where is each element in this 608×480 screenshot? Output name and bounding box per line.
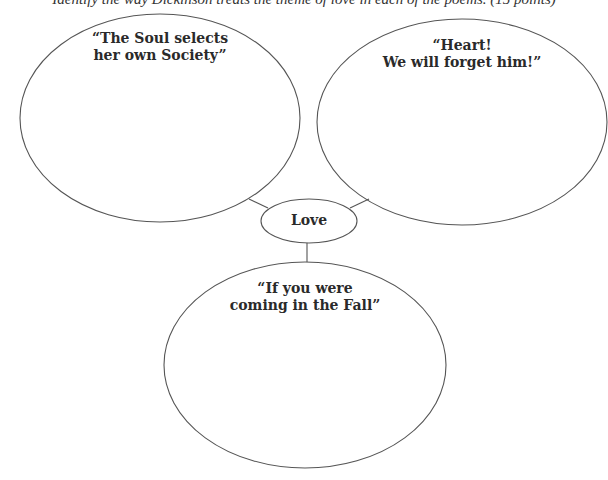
connector-right xyxy=(350,199,369,208)
oval-fall-title-line1: “If you were xyxy=(205,280,405,297)
center-love-label: Love xyxy=(259,212,359,229)
oval-soul-title: “The Soul selects her own Society” xyxy=(60,30,260,64)
oval-soul-title-line1: “The Soul selects xyxy=(60,30,260,47)
oval-heart-title-line2: We will forget him!” xyxy=(362,54,562,71)
concept-web xyxy=(0,0,608,480)
oval-fall-title: “If you were coming in the Fall” xyxy=(205,280,405,314)
oval-soul-title-line2: her own Society” xyxy=(60,47,260,64)
oval-heart-title: “Heart! We will forget him!” xyxy=(362,37,562,71)
oval-heart-title-line1: “Heart! xyxy=(362,37,562,54)
oval-fall-title-line2: coming in the Fall” xyxy=(205,297,405,314)
connector-left xyxy=(249,199,268,208)
